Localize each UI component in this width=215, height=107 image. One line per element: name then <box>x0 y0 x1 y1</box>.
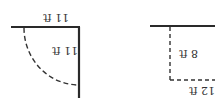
left-top-label: 11 ft <box>43 11 69 23</box>
right-left-label: 8 ft <box>179 47 198 59</box>
left-figure <box>11 27 80 98</box>
left-right-label: 11 ft <box>52 44 78 56</box>
right-bottom-label: 12 ft <box>189 84 215 96</box>
